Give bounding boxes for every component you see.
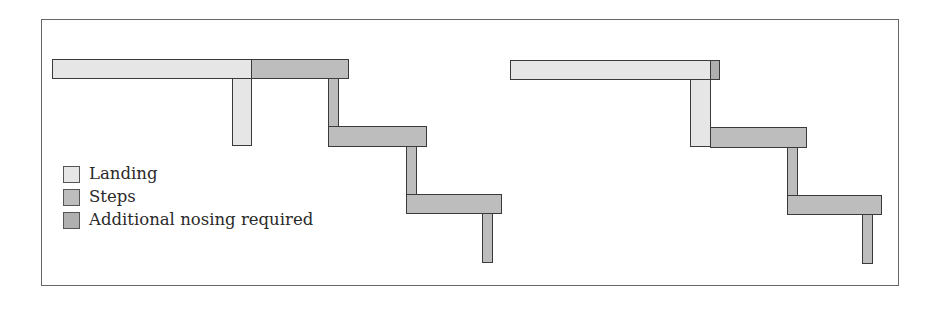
right-step-2-riser (787, 147, 798, 196)
left-landing-tread (52, 59, 252, 79)
right-step-2-tread (710, 127, 807, 148)
legend-label: Additional nosing required (89, 210, 313, 230)
right-landing-tread (510, 60, 711, 80)
left-landing-riser (232, 78, 252, 146)
left-step-3-riser (482, 213, 493, 263)
nosing-swatch-icon (63, 212, 80, 229)
legend-label: Steps (89, 187, 136, 207)
left-step-3-tread (406, 194, 502, 214)
left-step-1-riser (328, 78, 339, 127)
right-landing-riser (690, 79, 711, 147)
left-step-2-riser (406, 146, 417, 195)
left-step-2-tread (328, 126, 427, 147)
right-step-3-riser (862, 214, 873, 264)
landing-swatch-icon (63, 166, 80, 183)
left-step-1-tread (251, 59, 349, 79)
steps-swatch-icon (63, 189, 80, 206)
right-step-3-tread (787, 195, 882, 215)
legend-label: Landing (89, 164, 157, 184)
right-additional-nosing (710, 60, 720, 80)
